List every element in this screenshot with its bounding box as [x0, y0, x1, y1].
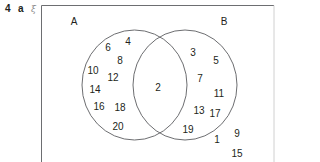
- region-value-a-and-b: 2: [155, 83, 161, 93]
- region-value-b-only: 17: [209, 109, 220, 119]
- region-value-b-only: 7: [197, 74, 203, 84]
- region-value-outside: 1: [214, 135, 220, 145]
- region-value-outside: 9: [234, 129, 240, 139]
- region-value-a-only: 20: [112, 122, 123, 132]
- region-value-b-only: 5: [213, 56, 219, 66]
- region-value-b-only: 11: [214, 89, 224, 99]
- region-value-b-only: 13: [193, 106, 204, 116]
- region-value-a-only: 8: [117, 56, 123, 66]
- region-value-a-only: 16: [93, 102, 104, 112]
- region-value-a-only: 4: [125, 37, 131, 47]
- region-value-outside: 15: [231, 149, 242, 159]
- region-value-a-only: 18: [114, 103, 125, 113]
- region-value-b-only: 19: [182, 125, 193, 135]
- region-value-b-only: 3: [190, 48, 196, 58]
- set-label-b: B: [221, 17, 228, 27]
- set-label-a: A: [71, 17, 78, 27]
- region-value-a-only: 12: [107, 73, 118, 83]
- region-value-a-only: 6: [105, 43, 111, 53]
- region-value-a-only: 14: [89, 85, 100, 95]
- region-value-a-only: 10: [87, 66, 98, 76]
